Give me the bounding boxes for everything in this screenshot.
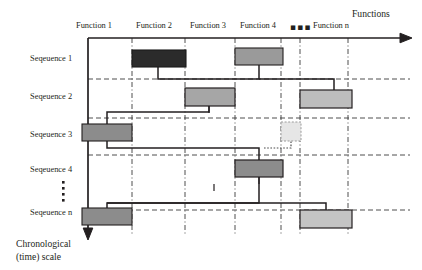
task-bar-seq3-function4-ghost[interactable] <box>281 122 301 141</box>
task-bar-seq1-function4[interactable] <box>235 48 283 65</box>
task-bar-seqn-function1[interactable] <box>82 208 132 225</box>
connector-seq2-f3-to-seq3-f1 <box>107 106 209 124</box>
connector-seqn-f1-to-seqn-fn <box>107 203 326 210</box>
time-axis-label: Chronological (time) scale <box>16 238 71 264</box>
connector-seq3-f1-to-seq4-f4 <box>107 141 259 160</box>
connector-seq1-f4-to-seq2-fn <box>259 79 334 90</box>
column-header-function-2: Function 2 <box>136 22 172 30</box>
column-header-function-1: Function 1 <box>76 22 112 30</box>
task-bar-seq1-function2[interactable] <box>132 50 186 67</box>
vertical-ellipsis-icon <box>62 181 65 202</box>
task-bar-seq2-function3[interactable] <box>185 88 235 106</box>
time-axis-arrowhead <box>83 228 93 240</box>
functions-axis-label: Functions <box>352 9 390 19</box>
column-header-function-4: Function 4 <box>240 22 276 30</box>
row-separators <box>88 79 410 210</box>
task-bar-seq3-function1[interactable] <box>82 124 132 141</box>
row-label-seqeuence-3: Seqeuence 3 <box>30 131 72 139</box>
functions-axis <box>88 33 412 43</box>
column-header-function-3: Function 3 <box>190 22 226 30</box>
task-bars <box>82 48 352 228</box>
connector-ghost-stub <box>264 141 291 148</box>
row-label-seqeuence-n: Seqeuence n <box>30 209 72 217</box>
functions-axis-arrowhead <box>400 33 412 43</box>
row-label-seqeuence-4: Seqeuence 4 <box>30 166 72 174</box>
diagram-stage: Function 1 Function 2 Function 3 Functio… <box>0 0 422 270</box>
row-label-seqeuence-2: Seqeuence 2 <box>30 93 72 101</box>
column-header-ellipsis-icon: ▪▪▪ <box>290 23 312 32</box>
task-bar-seqn-functionn[interactable] <box>300 210 352 228</box>
task-bar-seq4-function4[interactable] <box>235 160 283 177</box>
task-bar-seq2-functionn[interactable] <box>300 90 352 108</box>
column-header-function-n: Function n <box>313 22 349 30</box>
row-label-seqeuence-1: Seqeuence 1 <box>30 55 72 63</box>
